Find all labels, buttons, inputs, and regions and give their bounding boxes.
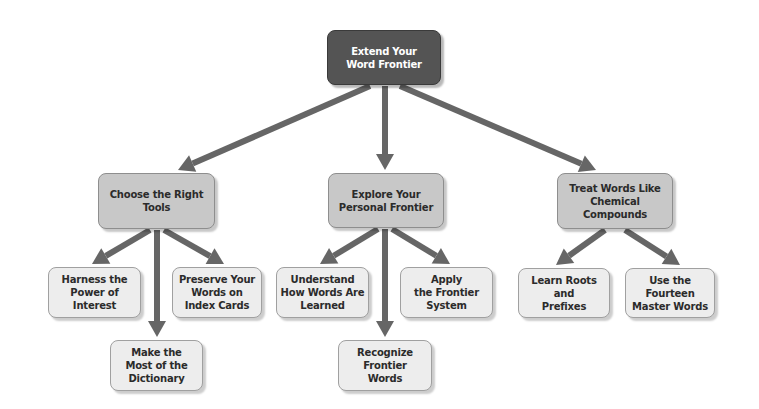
arrow-explore-to-recognize [376,229,394,337]
arrow-shaft [193,86,370,164]
leaf-node-label: Make the Most of the Dictionary [125,346,187,385]
arrow-root-to-treat-words [400,86,596,172]
arrow-treat-words-to-learn-roots [556,230,605,265]
leaf-node-recognize-frontier-words: Recognize Frontier Words [338,340,432,391]
leaf-node-harness-power-of-interest: Harness the Power of Interest [48,267,141,318]
branch-node-label: Explore Your Personal Frontier [339,188,433,214]
branch-node-choose-right-tools: Choose the Right Tools [98,173,215,229]
arrow-head [376,321,394,337]
leaf-node-label: Recognize Frontier Words [357,346,413,385]
arrow-shaft [400,86,581,164]
arrow-explore-to-understand [320,229,378,264]
arrow-choose-tools-to-dictionary [148,230,166,337]
arrow-shaft [569,230,605,256]
arrow-root-to-explore [376,86,394,170]
arrow-choose-tools-to-preserve [164,230,224,264]
leaf-node-preserve-words-index-cards: Preserve Your Words on Index Cards [172,267,262,318]
arrow-shaft [334,229,378,256]
branch-node-explore-personal-frontier: Explore Your Personal Frontier [328,173,444,228]
arrow-head [376,154,394,170]
leaf-node-use-fourteen-master-words: Use the Fourteen Master Words [625,268,715,318]
branch-node-treat-words-chemical-compounds: Treat Words Like Chemical Compounds [557,173,673,229]
arrow-choose-tools-to-harness [92,230,150,264]
root-node-label: Extend Your Word Frontier [346,45,422,71]
leaf-node-label: Apply the Frontier System [414,273,479,312]
leaf-node-label: Harness the Power of Interest [62,273,128,312]
arrow-shaft [106,230,150,256]
branch-node-label: Treat Words Like Chemical Compounds [569,182,660,221]
arrow-shaft [392,229,436,256]
leaf-node-label: Use the Fourteen Master Words [632,274,708,313]
arrow-head [148,321,166,337]
leaf-node-understand-how-words-learned: Understand How Words Are Learned [276,267,369,318]
leaf-node-label: Preserve Your Words on Index Cards [179,273,255,312]
arrow-shaft [625,230,667,256]
leaf-node-apply-frontier-system: Apply the Frontier System [400,267,493,318]
leaf-node-label: Learn Roots and Prefixes [531,274,596,313]
leaf-node-learn-roots-prefixes: Learn Roots and Prefixes [518,268,610,318]
leaf-node-make-most-of-dictionary: Make the Most of the Dictionary [110,340,203,391]
arrow-root-to-choose-tools [178,86,370,172]
branch-node-label: Choose the Right Tools [110,188,204,214]
arrow-explore-to-apply [392,229,450,264]
arrow-treat-words-to-master-words [625,230,680,265]
leaf-node-label: Understand How Words Are Learned [281,273,365,312]
concept-diagram: Extend Your Word Frontier Choose the Rig… [0,0,759,409]
root-node-extend-word-frontier: Extend Your Word Frontier [327,30,441,85]
arrow-shaft [164,230,210,256]
